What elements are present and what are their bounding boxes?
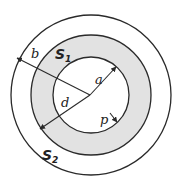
label-a: a	[95, 72, 103, 87]
label-p: p	[100, 112, 109, 127]
label-d: d	[61, 95, 69, 110]
label-b: b	[31, 46, 39, 61]
concentric-circles-diagram: b a d p S1 S2	[0, 0, 181, 185]
